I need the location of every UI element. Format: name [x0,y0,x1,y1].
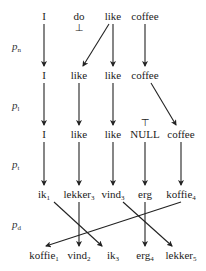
token: like [71,69,88,81]
token-text: coffee [131,10,158,22]
alignment-arrow [123,202,172,246]
token-text: do [74,10,85,22]
token-text: vind [67,249,87,261]
phase-label-pt: pt [12,158,19,174]
token-text: lekker [64,188,91,200]
token-text: I [42,69,46,81]
alignment-diagram: pnplptpd IdolikecoffeeIlikelikecoffeeIli… [0,0,206,271]
token-text: NULL [130,128,159,140]
token: koffie4 [166,188,196,204]
token-text: like [71,128,88,140]
token: like [105,69,122,81]
token: I [42,10,46,22]
down-tack-insertion-icon: ⊤ [141,118,150,128]
phase-label-sub: d [18,224,22,232]
token-text: like [105,128,122,140]
token-subscript: 4 [192,194,196,202]
token-text: coffee [167,128,194,140]
token-text: vind [101,188,121,200]
up-tack-deletion-icon: ⊥ [75,23,84,33]
alignment-arrow [83,24,109,66]
token-subscript: 1 [47,194,51,202]
token: like [105,10,122,22]
token-text: koffie [29,249,55,261]
token: koffie1 [29,249,59,265]
token-text: like [71,69,88,81]
token: erg [138,188,152,200]
token-subscript: 4 [150,255,154,263]
token: lekker3 [64,188,95,204]
token-subscript: 3 [116,255,120,263]
token: erg4 [136,249,153,265]
token: ik3 [107,249,119,265]
token: vind3 [101,188,124,204]
phase-label-pd: pd [12,218,21,234]
token-text: like [105,69,122,81]
token: vind2 [67,249,90,265]
token: NULL [130,128,159,140]
token-subscript: 1 [55,255,59,263]
token-subscript: 3 [121,194,125,202]
token: do [74,10,85,22]
token: coffee [131,10,158,22]
phase-label-sub: l [18,105,20,113]
token: lekker5 [166,249,197,265]
token: coffee [131,69,158,81]
token: I [42,69,46,81]
token-text: I [42,128,46,140]
token-text: coffee [131,69,158,81]
token: like [105,128,122,140]
token-text: lekker [166,249,193,261]
token-subscript: 5 [193,255,197,263]
phase-label-sub: n [18,46,22,54]
token-subscript: 3 [91,194,95,202]
token-text: erg [138,188,152,200]
phase-label-sub: t [18,164,20,172]
token-text: ik [38,188,47,200]
token: I [42,128,46,140]
alignment-arrow [151,83,176,125]
token: like [71,128,88,140]
token-text: like [105,10,122,22]
token-text: ik [107,249,116,261]
alignment-arrow [54,202,102,246]
phase-label-pl: pl [12,99,19,115]
token-text: erg [136,249,150,261]
alignment-arrow [46,202,181,246]
token: coffee [167,128,194,140]
token-text: koffie [166,188,192,200]
token: ik1 [38,188,50,204]
phase-label-pn: pn [12,40,21,56]
token-subscript: 2 [87,255,91,263]
token-text: I [42,10,46,22]
